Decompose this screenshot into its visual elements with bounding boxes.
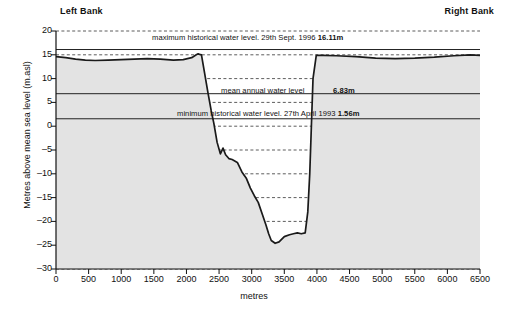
annotation-maximum-level-text: maximum historical water level. 29th Sep…	[152, 33, 318, 42]
annotation-mean-level-value: 6.83m	[333, 86, 355, 95]
annotation-mean-level: mean annual water level	[221, 86, 304, 95]
annotation-maximum-level: maximum historical water level. 29th Sep…	[152, 33, 343, 42]
plot-area	[0, 0, 508, 317]
annotation-minimum-level-value: 1.56m	[338, 109, 360, 118]
annotation-maximum-level-value: 16.11m	[318, 33, 344, 42]
river-cross-section-chart: Left Bank Right Bank Metres above mean s…	[0, 0, 508, 317]
annotation-minimum-level-text: minimum historical water level. 27th Apr…	[177, 109, 338, 118]
annotation-minimum-level: minimum historical water level. 27th Apr…	[177, 109, 359, 118]
